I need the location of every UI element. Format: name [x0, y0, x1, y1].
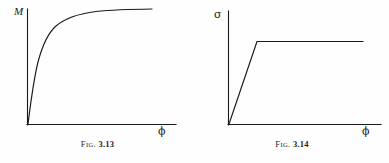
y-axis-label-moment: M: [14, 6, 23, 17]
caption-prefix-rest: IG: [280, 141, 288, 148]
caption-period: .: [94, 139, 96, 149]
caption-prefix-rest: IG: [86, 141, 94, 148]
figure-caption-3-13: FIG. 3.13: [0, 139, 195, 149]
moment-curvature-curve: [28, 9, 152, 124]
plot-area-3-13: [0, 0, 195, 140]
caption-number: 3.13: [99, 139, 115, 149]
elastic-perfectly-plastic-curve: [229, 42, 363, 125]
y-axis-label-sigma: σ: [214, 9, 222, 20]
figure-caption-3-14: FIG. 3.14: [195, 139, 389, 149]
figure-3-13: M ϕ FIG. 3.13: [0, 0, 195, 163]
figure-3-14: σ ϕ FIG. 3.14: [195, 0, 389, 163]
x-axis-label-phi: ϕ: [362, 126, 370, 137]
x-axis-label-phi: ϕ: [158, 126, 166, 137]
page-canvas: M ϕ FIG. 3.13 σ ϕ FIG. 3.14: [0, 0, 389, 163]
plot-area-3-14: [195, 0, 389, 140]
caption-period: .: [288, 139, 290, 149]
caption-number: 3.14: [293, 139, 309, 149]
